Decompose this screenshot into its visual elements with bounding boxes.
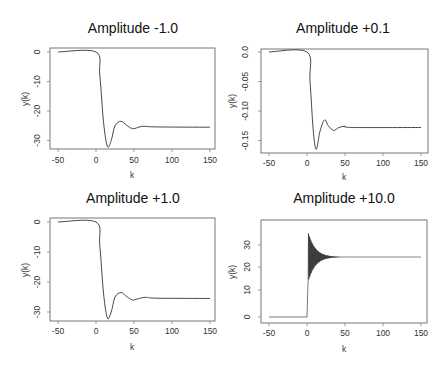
x-tick-label: 50 <box>340 328 350 338</box>
axis-ticks: -500501001500.0-0.05-0.10-0.15 <box>240 46 428 168</box>
x-axis-label: k <box>130 170 135 180</box>
plot-area <box>50 48 215 149</box>
y-tick-label: -30 <box>32 134 42 147</box>
response-curve <box>269 50 421 150</box>
x-tick-label: 100 <box>376 158 390 168</box>
x-tick-label: 50 <box>340 158 350 168</box>
plot-area <box>261 49 428 153</box>
y-axis-label: y(k) <box>227 94 237 108</box>
x-tick-label: -50 <box>52 155 65 165</box>
panel-title: Amplitude -1.0 <box>88 20 178 36</box>
y-axis-label: y(k) <box>227 265 237 279</box>
y-tick-label: -20 <box>32 105 42 118</box>
x-tick-label: 100 <box>165 155 179 165</box>
x-tick-label: 0 <box>305 328 310 338</box>
y-tick-label: 0 <box>32 219 42 224</box>
y-tick-label: -30 <box>32 306 42 319</box>
panel-amplitude-plus-0.1: Amplitude +0.1 -500501001500.0-0.05-0.10… <box>227 20 428 182</box>
y-tick-label: 20 <box>242 262 252 272</box>
plot-area <box>261 220 427 323</box>
panel-title: Amplitude +1.0 <box>86 190 180 206</box>
x-tick-label: -50 <box>52 326 65 336</box>
figure: Amplitude -1.0 -500501001500-10-20-30 k … <box>0 0 445 374</box>
x-tick-label: 150 <box>203 155 217 165</box>
x-axis-label: k <box>342 344 347 354</box>
y-tick-label: -10 <box>32 246 42 259</box>
y-axis-label: y(k) <box>20 92 30 106</box>
panel-amplitude-plus-1: Amplitude +1.0 -500501001500-10-20-30 k … <box>20 190 217 352</box>
panel-title: Amplitude +10.0 <box>293 190 395 206</box>
x-tick-label: 0 <box>94 155 99 165</box>
y-tick-label: -0.15 <box>240 131 250 151</box>
x-tick-label: 50 <box>129 155 139 165</box>
x-tick-label: 100 <box>376 328 390 338</box>
x-tick-label: 150 <box>414 158 428 168</box>
response-curve <box>58 220 210 319</box>
x-tick-label: -50 <box>263 158 276 168</box>
x-tick-label: 150 <box>414 328 428 338</box>
y-tick-label: -20 <box>32 276 42 289</box>
y-axis-label: y(k) <box>20 263 30 277</box>
response-curve <box>269 233 421 317</box>
x-tick-label: 150 <box>203 326 217 336</box>
x-tick-label: 0 <box>94 326 99 336</box>
y-tick-label: 10 <box>242 285 252 295</box>
y-tick-label: 0 <box>242 314 252 319</box>
response-curve <box>58 50 210 147</box>
y-tick-label: -0.10 <box>240 101 250 121</box>
x-tick-label: 50 <box>129 326 139 336</box>
panel-amplitude-minus-1: Amplitude -1.0 -500501001500-10-20-30 k … <box>20 20 217 180</box>
y-tick-label: 0.0 <box>240 46 250 58</box>
x-tick-label: 0 <box>305 158 310 168</box>
x-tick-label: 100 <box>165 326 179 336</box>
y-tick-label: -0.05 <box>240 72 250 92</box>
y-tick-label: 0 <box>32 49 42 54</box>
x-axis-label: k <box>130 342 135 352</box>
y-tick-label: -10 <box>32 75 42 88</box>
axis-ticks: -500501001500-10-20-30 <box>32 49 217 165</box>
x-tick-label: -50 <box>263 328 276 338</box>
axis-ticks: -500501001500-10-20-30 <box>32 219 217 336</box>
y-tick-label: 30 <box>242 240 252 250</box>
panel-title: Amplitude +0.1 <box>296 20 390 36</box>
panel-amplitude-plus-10: Amplitude +10.0 -500501001500102030 k y(… <box>227 190 428 354</box>
plot-area <box>50 218 215 321</box>
x-axis-label: k <box>342 172 347 182</box>
